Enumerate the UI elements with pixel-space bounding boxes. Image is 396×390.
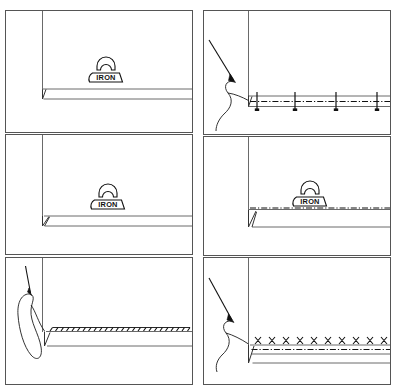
hemming-diagram-figure: IRON [0, 0, 396, 390]
panel-bottom-right [204, 258, 391, 385]
panel-frame [204, 11, 391, 135]
panel-top-left: IRON [6, 11, 193, 133]
panel-frame [6, 258, 193, 385]
panel-middle-left: IRON [6, 135, 193, 255]
panel-middle-right: IRON [204, 137, 391, 256]
panel-top-right [204, 11, 391, 135]
panel-frame [204, 137, 391, 256]
iron-label: IRON [300, 197, 319, 206]
iron-label: IRON [98, 200, 117, 209]
hemming-diagram-svg: IRON [0, 0, 396, 390]
panel-frame [6, 11, 193, 133]
panel-bottom-left [6, 258, 193, 385]
iron-label: IRON [96, 73, 115, 82]
